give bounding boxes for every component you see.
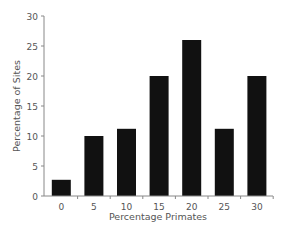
x-axis-title: Percentage Primates bbox=[109, 211, 207, 222]
y-axis: 051015202530 bbox=[27, 12, 44, 202]
x-axis: 051015202530 bbox=[44, 196, 273, 212]
bars bbox=[52, 40, 267, 196]
y-tick-label: 10 bbox=[27, 132, 39, 142]
y-tick-label: 20 bbox=[27, 72, 39, 82]
bar-30 bbox=[247, 76, 266, 196]
bar-15 bbox=[150, 76, 169, 196]
x-tick-label: 25 bbox=[219, 202, 230, 212]
x-tick-label: 0 bbox=[58, 202, 64, 212]
bar-chart: 051015202530 051015202530 Percentage Pri… bbox=[0, 0, 285, 233]
y-tick-label: 30 bbox=[27, 12, 39, 22]
x-tick-label: 30 bbox=[251, 202, 263, 212]
y-tick-label: 5 bbox=[32, 162, 38, 172]
bar-25 bbox=[215, 129, 234, 196]
bar-10 bbox=[117, 129, 136, 196]
y-tick-label: 15 bbox=[27, 102, 38, 112]
bar-20 bbox=[182, 40, 201, 196]
y-axis-title: Percentage of Sites bbox=[11, 60, 22, 152]
x-tick-label: 5 bbox=[91, 202, 97, 212]
y-tick-label: 0 bbox=[32, 192, 38, 202]
bar-0 bbox=[52, 180, 71, 196]
y-tick-label: 25 bbox=[27, 42, 38, 52]
bar-5 bbox=[84, 136, 103, 196]
